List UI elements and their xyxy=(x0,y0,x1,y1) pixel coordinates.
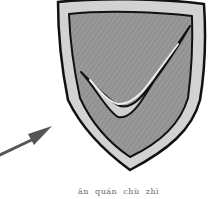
arrow-pointer-icon xyxy=(0,126,52,155)
illustration-canvas: ān quán chù zhì xyxy=(0,0,212,199)
shield-check-icon xyxy=(0,0,212,199)
caption-text: ān quán chù zhì xyxy=(78,187,212,196)
